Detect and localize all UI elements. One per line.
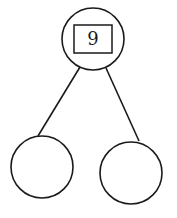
number-bond-diagram: 9 [0,0,177,218]
part-circle-right[interactable] [100,142,162,204]
connector-right [106,68,139,141]
connector-left [38,67,80,136]
part-circle-left[interactable] [11,136,73,198]
whole-value: 9 [87,28,98,49]
